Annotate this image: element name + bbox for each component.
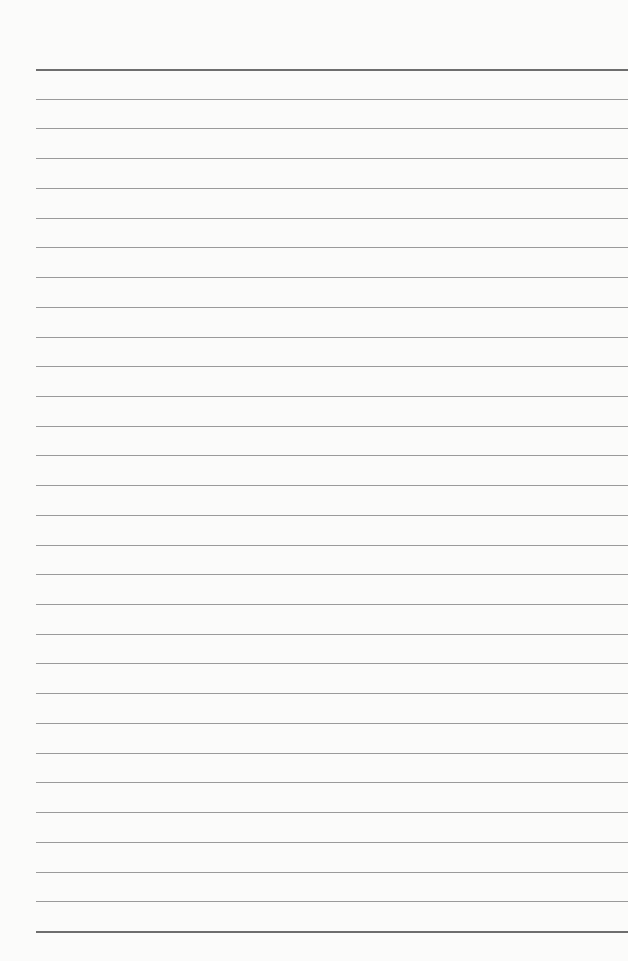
ruled-line xyxy=(36,782,628,783)
ruled-line xyxy=(36,188,628,189)
ruled-line xyxy=(36,723,628,724)
ruled-line xyxy=(36,574,628,575)
ruled-line xyxy=(36,455,628,456)
ruled-line xyxy=(36,604,628,605)
ruled-line xyxy=(36,693,628,694)
ruled-line xyxy=(36,812,628,813)
ruled-line xyxy=(36,396,628,397)
ruled-line xyxy=(36,218,628,219)
ruled-line xyxy=(36,515,628,516)
ruled-line xyxy=(36,842,628,843)
ruled-line xyxy=(36,485,628,486)
ruled-line xyxy=(36,901,628,902)
ruled-line xyxy=(36,307,628,308)
ruled-line xyxy=(36,545,628,546)
ruled-line xyxy=(36,663,628,664)
ruled-line xyxy=(36,426,628,427)
ruled-line xyxy=(36,277,628,278)
ruled-line xyxy=(36,337,628,338)
lined-paper-page xyxy=(0,0,628,961)
ruled-line xyxy=(36,99,628,100)
ruled-line xyxy=(36,931,628,933)
ruled-line xyxy=(36,247,628,248)
ruled-line xyxy=(36,366,628,367)
ruled-line xyxy=(36,158,628,159)
ruled-line xyxy=(36,634,628,635)
ruled-line xyxy=(36,128,628,129)
ruled-line xyxy=(36,872,628,873)
ruled-line xyxy=(36,69,628,71)
ruled-line xyxy=(36,753,628,754)
